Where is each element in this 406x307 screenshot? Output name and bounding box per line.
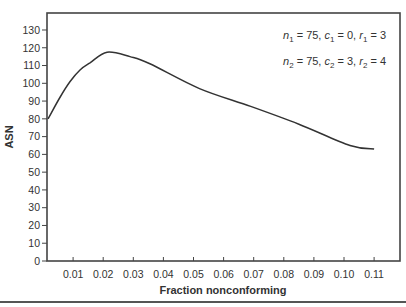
- y-tick-label: 0: [34, 255, 40, 267]
- x-tick-label: 0.08: [274, 268, 295, 280]
- y-axis-title: ASN: [3, 125, 15, 148]
- asn-chart: 0102030405060708090100110120130 0.010.02…: [0, 0, 406, 307]
- y-tick-label: 120: [22, 42, 40, 54]
- y-tick-label: 80: [28, 113, 40, 125]
- y-tick-label: 40: [28, 184, 40, 196]
- x-tick-label: 0.05: [183, 268, 204, 280]
- y-tick-label: 50: [28, 166, 40, 178]
- x-tick-label: 0.10: [334, 268, 355, 280]
- y-tick-label: 70: [28, 130, 40, 142]
- x-axis-title: Fraction nonconforming: [159, 284, 286, 296]
- x-tick-label: 0.03: [123, 268, 144, 280]
- y-tick-label: 130: [22, 24, 40, 36]
- x-tick-label: 0.09: [304, 268, 325, 280]
- plan-annotation-stage1: n1 = 75, c1 = 0, r1 = 3: [283, 29, 386, 44]
- x-tick-label: 0.11: [364, 268, 384, 280]
- plan-annotation-stage2: n2 = 75, c2 = 3, r2 = 4: [283, 55, 386, 70]
- x-tick-label: 0.02: [93, 268, 114, 280]
- y-tick-label: 110: [23, 59, 40, 71]
- x-tick-label: 0.01: [63, 268, 84, 280]
- plot-frame: [47, 13, 400, 261]
- x-tick-label: 0.07: [243, 268, 264, 280]
- y-axis-ticks: 0102030405060708090100110120130: [22, 24, 47, 267]
- bottom-rule: [0, 301, 406, 303]
- y-tick-label: 20: [28, 219, 40, 231]
- x-tick-label: 0.04: [153, 268, 174, 280]
- y-tick-label: 60: [28, 148, 40, 160]
- y-tick-label: 10: [28, 237, 40, 249]
- y-tick-label: 100: [22, 77, 40, 89]
- y-tick-label: 30: [28, 201, 40, 213]
- y-tick-label: 90: [28, 95, 40, 107]
- x-tick-label: 0.06: [213, 268, 234, 280]
